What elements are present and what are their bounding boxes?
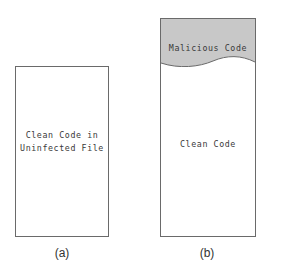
label-line-2: Uninfected File bbox=[16, 142, 108, 155]
uninfected-file-box: Clean Code in Uninfected File bbox=[15, 66, 109, 237]
infected-file-box: Malicious Code Clean Code bbox=[160, 18, 256, 237]
malicious-code-label: Malicious Code bbox=[161, 43, 255, 53]
clean-code-label: Clean Code bbox=[161, 139, 255, 149]
uninfected-file-label: Clean Code in Uninfected File bbox=[16, 129, 108, 155]
label-line-1: Clean Code in bbox=[16, 129, 108, 142]
caption-a: (a) bbox=[42, 246, 82, 260]
caption-b: (b) bbox=[187, 246, 227, 260]
